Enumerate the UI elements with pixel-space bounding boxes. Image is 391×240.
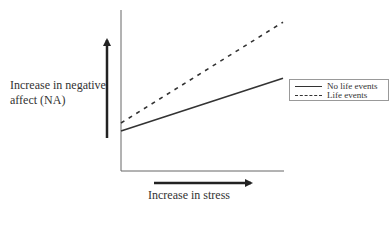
line-no-life-events [121, 78, 283, 131]
solid-line-swatch-icon [295, 86, 322, 87]
x-axis-label: Increase in stress [148, 188, 230, 203]
legend-label: Life events [327, 90, 367, 100]
line-life-events [121, 22, 283, 123]
legend: No life events Life events [289, 79, 389, 101]
y-axis-label-line1: Increase in negative [10, 78, 106, 93]
y-axis-label: Increase in negative affect (NA) [10, 78, 106, 108]
legend-item-life-events: Life events [290, 90, 388, 100]
dashed-line-swatch-icon [295, 95, 322, 96]
y-axis-label-line2: affect (NA) [10, 93, 106, 108]
